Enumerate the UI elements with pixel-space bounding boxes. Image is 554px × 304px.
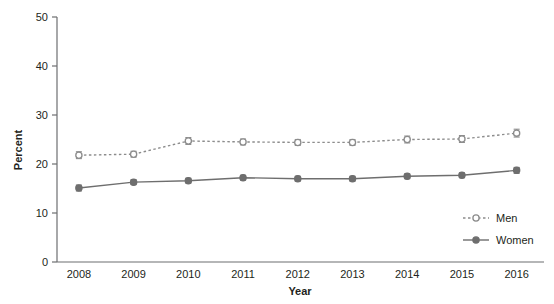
y-tick-label: 30 [36, 109, 48, 121]
data-point-women [295, 176, 301, 182]
data-point-men [76, 152, 82, 158]
y-tick-label: 20 [36, 158, 48, 170]
data-point-women [349, 176, 355, 182]
y-tick-label: 50 [36, 11, 48, 23]
data-point-women [76, 185, 82, 191]
x-axis-ticks: 200820092010201120122013201420152016 [67, 268, 529, 280]
data-point-women [514, 167, 520, 173]
x-tick-label: 2015 [450, 268, 474, 280]
x-tick-label: 2008 [67, 268, 91, 280]
data-series [76, 129, 520, 191]
data-point-men [459, 136, 465, 142]
chart-container: 01020304050 2008200920102011201220132014… [0, 0, 554, 304]
x-tick-label: 2010 [176, 268, 200, 280]
data-point-women [185, 178, 191, 184]
x-tick-label: 2011 [231, 268, 255, 280]
data-point-men [404, 136, 410, 142]
data-point-women [240, 175, 246, 181]
chart-legend: MenWomen [463, 212, 534, 246]
y-tick-label: 40 [36, 60, 48, 72]
x-tick-label: 2009 [121, 268, 145, 280]
x-axis-title: Year [288, 285, 312, 297]
y-axis-ticks: 01020304050 [36, 11, 57, 268]
data-point-men [131, 151, 137, 157]
data-point-men [349, 139, 355, 145]
data-point-men [514, 130, 520, 136]
legend-marker-women [473, 237, 479, 243]
y-tick-label: 10 [36, 207, 48, 219]
data-point-women [131, 179, 137, 185]
y-tick-label: 0 [42, 256, 48, 268]
line-chart: 01020304050 2008200920102011201220132014… [0, 0, 554, 304]
x-tick-label: 2016 [504, 268, 528, 280]
data-point-men [185, 138, 191, 144]
data-point-men [240, 139, 246, 145]
x-tick-label: 2012 [286, 268, 310, 280]
legend-marker-men [473, 215, 479, 221]
data-point-women [404, 173, 410, 179]
legend-label-women: Women [496, 234, 534, 246]
x-tick-label: 2014 [395, 268, 419, 280]
data-point-men [295, 139, 301, 145]
x-tick-label: 2013 [340, 268, 364, 280]
y-axis-title: Percent [12, 129, 24, 170]
legend-label-men: Men [496, 212, 517, 224]
data-point-women [459, 172, 465, 178]
